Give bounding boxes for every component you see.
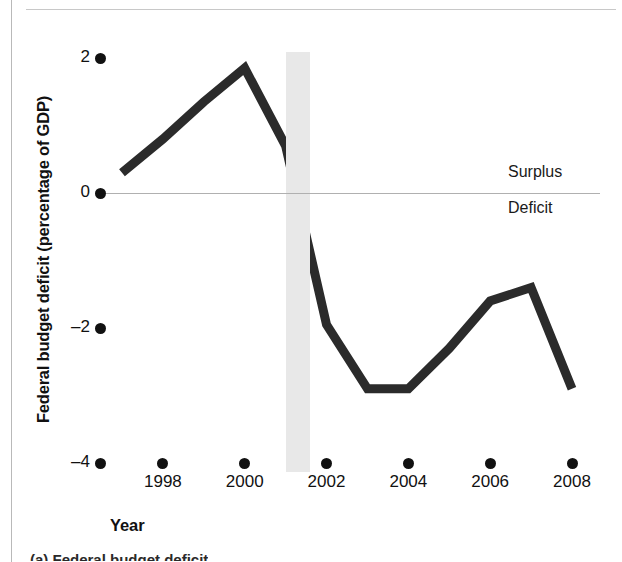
x-tick-dot (403, 458, 414, 469)
x-tick-label: 2000 (215, 472, 275, 492)
x-tick-label: 2004 (378, 472, 438, 492)
y-tick-label: –2 (56, 317, 90, 337)
x-tick-dot (485, 458, 496, 469)
y-tick-label: –4 (56, 452, 90, 472)
plot-area: 20–2–4 199820002002200420062008 (0, 0, 622, 562)
y-tick-label: 0 (56, 182, 90, 202)
figure-panel: Federal budget deficit (percentage of GD… (0, 0, 622, 562)
figure-caption-clipped: (a) Federal budget deficit (30, 552, 208, 561)
y-tick-dot (95, 188, 106, 199)
x-tick-label: 2006 (460, 472, 520, 492)
deficit-label: Deficit (508, 199, 552, 217)
y-tick-dot (95, 458, 106, 469)
x-tick-label: 2002 (297, 472, 357, 492)
y-tick-dot (95, 53, 106, 64)
zero-reference-line (100, 193, 600, 194)
surplus-label: Surplus (508, 163, 562, 181)
y-tick-label: 2 (56, 47, 90, 67)
x-tick-label: 2008 (542, 472, 602, 492)
y-tick-dot (95, 323, 106, 334)
x-tick-dot (157, 458, 168, 469)
x-tick-dot (567, 458, 578, 469)
x-tick-label: 1998 (133, 472, 193, 492)
data-line-federal-budget-deficit (122, 68, 572, 389)
x-tick-dot (239, 458, 250, 469)
recession-band-2001 (286, 52, 311, 472)
x-tick-dot (321, 458, 332, 469)
